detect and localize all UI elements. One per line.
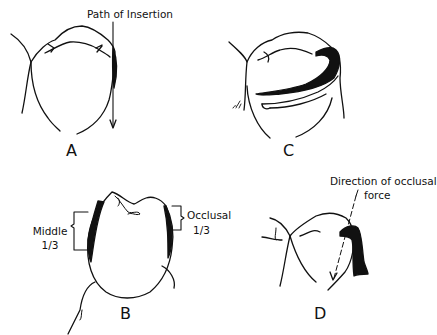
panel-c-label: C [283,143,294,159]
occlusal-label: Occlusal [187,210,231,221]
panel-c-drawing [229,32,344,138]
panel-b-label: B [120,306,131,322]
occlusal-fraction-label: 1/3 [193,225,210,236]
force-label: force [364,190,390,201]
panel-a-drawing [11,22,117,134]
panel-a-label: A [66,143,77,159]
path-of-insertion-label: Path of Insertion [87,9,173,20]
middle-fraction-label: 1/3 [30,240,70,251]
panel-d-drawing [262,190,368,290]
direction-of-force-label: Direction of occlusal [330,176,437,187]
middle-label: Middle [30,226,70,237]
panel-d-label: D [314,306,326,322]
